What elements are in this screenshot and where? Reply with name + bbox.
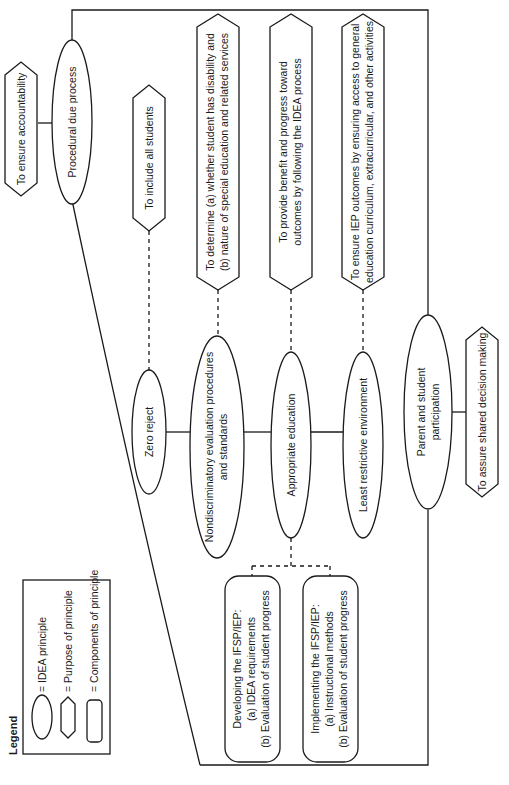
component-developing-line1: Developing the IFSP/IEP: bbox=[231, 609, 243, 728]
principle-text-zero-reject: Zero reject bbox=[143, 407, 155, 457]
legend-hexagon-icon bbox=[61, 697, 75, 738]
principle-zero-reject: To include all students Zero reject bbox=[132, 85, 166, 494]
principle-text-appropriate: Appropriate education bbox=[285, 393, 297, 496]
legend-rounded-rect-icon bbox=[87, 700, 102, 742]
purpose-text-access-line1: To ensure IEP outcomes by ensuring acces… bbox=[349, 24, 361, 281]
legend-label-idea-principle: = IDEA principle bbox=[36, 617, 48, 692]
component-developing-line2: (a) IDEA requirements bbox=[245, 617, 257, 721]
legend-label-components: = Components of principle bbox=[88, 570, 100, 692]
purpose-text-determine-line2: (b) nature of special education and rela… bbox=[218, 33, 230, 271]
legend-title: Legend bbox=[7, 716, 19, 755]
purpose-text-benefit-line2: outcomes by following the IDEA process bbox=[291, 58, 303, 245]
legend-ellipse-icon bbox=[32, 695, 52, 739]
principle-text-lre: Least restrictive environment bbox=[357, 378, 369, 512]
component-implementing-line2: (a) Instructional methods bbox=[323, 611, 335, 727]
purpose-text-shared-decision: To assure shared decision making bbox=[476, 332, 488, 491]
purpose-text-benefit-line1: To provide benefit and progress toward bbox=[277, 61, 289, 243]
principle-nondiscriminatory-evaluation: To determine (a) whether student has dis… bbox=[190, 14, 244, 558]
purpose-text-include-all: To include all students bbox=[143, 106, 155, 209]
purpose-text-access-line2: education curriculum, extracurricular, a… bbox=[363, 21, 375, 283]
purpose-text-accountability: To ensure accountability bbox=[15, 72, 27, 185]
purpose-text-determine-line1: To determine (a) whether student has dis… bbox=[204, 33, 216, 271]
principle-ellipse-parent bbox=[404, 315, 452, 509]
principle-text-nondiscriminatory-line1: Nondiscriminatory evaluation procedures bbox=[203, 352, 215, 542]
idea-principles-diagram: To ensure accountability Procedural due … bbox=[0, 0, 509, 785]
principle-parent-student-participation: Parent and student participation To assu… bbox=[404, 315, 498, 509]
component-implementing-line3: (b) Evaluation of student progress bbox=[337, 590, 349, 748]
legend: Legend = IDEA principle = Purpose of pri… bbox=[7, 570, 110, 755]
component-implementing-line1: Implementing the IFSP/IEP: bbox=[309, 604, 321, 734]
component-developing-line3: (b) Evaluation of student progress bbox=[259, 590, 271, 748]
principle-text-procedural: Procedural due process bbox=[66, 67, 78, 178]
principle-least-restrictive-environment: To ensure IEP outcomes by ensuring acces… bbox=[342, 14, 384, 538]
principle-procedural-due-process: To ensure accountability Procedural due … bbox=[5, 40, 92, 204]
principle-text-parent-line1: Parent and student bbox=[415, 368, 427, 457]
principle-appropriate-education: To provide benefit and progress toward o… bbox=[225, 14, 358, 762]
legend-label-purpose: = Purpose of principle bbox=[62, 590, 74, 692]
principle-text-parent-line2: participation bbox=[429, 384, 441, 441]
principle-text-nondiscriminatory-line2: and standards bbox=[217, 414, 229, 481]
